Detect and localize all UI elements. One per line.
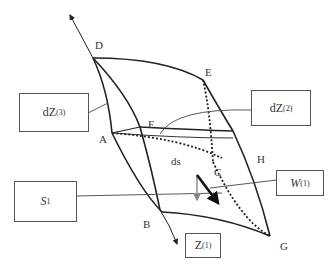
stress-vector-arrow — [197, 175, 218, 203]
edge-D-F — [93, 58, 140, 127]
edge-A-F — [112, 127, 140, 133]
point-label-D: D — [95, 40, 103, 51]
box-dz2: dZ(2) — [251, 90, 311, 126]
leader-w1 — [210, 180, 277, 188]
box-dz3-base: dZ — [43, 105, 56, 120]
point-label-H: H — [257, 154, 265, 165]
box-dz2-sup: (2) — [283, 104, 292, 113]
box-dz3: dZ(3) — [19, 93, 89, 132]
point-label-E: E — [205, 67, 212, 78]
box-s1: S1 — [14, 181, 77, 222]
box-s1-sub: 1 — [47, 197, 51, 206]
edge-E-C-dotted — [203, 80, 213, 162]
point-label-C: C — [214, 167, 221, 178]
edge-A-B — [112, 133, 162, 212]
point-label-F: F — [148, 119, 154, 130]
point-label-A: A — [99, 134, 107, 145]
diagram-canvas: D E F A H C B G ds dZ(3) dZ(2) S1 W(1) Z… — [0, 0, 334, 268]
box-z1: Z(1) — [185, 233, 221, 258]
box-z1-base: Z — [195, 238, 202, 253]
z1-arrow — [160, 210, 177, 244]
point-label-G: G — [280, 241, 288, 252]
box-w1-base: W — [290, 176, 300, 191]
axis-dz3-arrow — [70, 15, 93, 58]
box-w1: W(1) — [276, 170, 324, 196]
area-label-ds: ds — [171, 156, 181, 167]
box-z1-sup: (1) — [202, 241, 211, 250]
surface-element-drawing — [0, 0, 334, 268]
leader-dz3 — [88, 103, 108, 113]
edge-H-G — [233, 131, 270, 236]
box-dz2-base: dZ — [270, 101, 283, 116]
edge-E-H — [203, 80, 233, 131]
box-w1-sup: (1) — [300, 179, 309, 188]
point-label-B: B — [143, 219, 150, 230]
box-dz3-sup: (3) — [56, 108, 65, 117]
